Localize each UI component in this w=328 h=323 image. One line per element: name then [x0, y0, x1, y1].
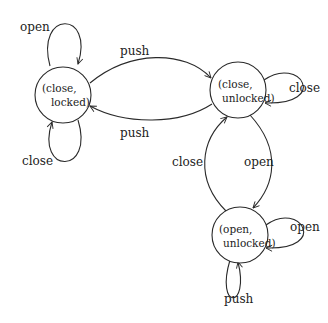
state-label-line2: unlocked): [223, 237, 275, 249]
state-open-unlocked: (open, unlocked): [212, 207, 275, 263]
edge-label-push-top: push: [120, 44, 150, 58]
edge-cl-cu-push: [90, 58, 211, 83]
state-diagram: open close push push close open close op…: [0, 0, 328, 323]
edge-cl-open-loop: [48, 24, 81, 66]
state-close-locked: (close, locked): [35, 67, 91, 123]
edge-label-close-ou-cu: close: [172, 155, 203, 169]
state-label-line1: (open,: [219, 223, 252, 235]
edge-label-open-cu-ou: open: [244, 155, 274, 169]
edge-label-close-cl: close: [22, 154, 53, 168]
state-label-line1: (close,: [42, 82, 77, 94]
state-close-unlocked: (close, unlocked): [210, 62, 274, 118]
edge-cu-cl-push: [90, 104, 212, 120]
edge-cl-close-loop: [49, 120, 81, 162]
edge-label-push-bottom: push: [120, 126, 150, 140]
state-label-line2: locked): [51, 96, 90, 108]
state-label-line1: (close,: [218, 78, 253, 90]
edge-label-push-ou: push: [224, 292, 254, 306]
state-label-line2: unlocked): [222, 92, 274, 104]
edge-label-close-cu: close: [289, 81, 320, 95]
edge-label-open-cl: open: [20, 20, 50, 34]
edge-ou-cu-close: [205, 117, 227, 211]
edge-label-open-ou: open: [290, 220, 320, 234]
